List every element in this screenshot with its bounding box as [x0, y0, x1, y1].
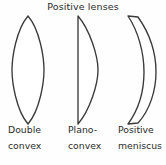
lens-label-double-convex-line2: convex	[8, 138, 41, 154]
lens-label-plano-convex-line1: Plano-	[68, 122, 101, 138]
lens-shape-plano-convex	[56, 14, 112, 126]
lens-outline-positive-meniscus	[128, 16, 156, 124]
lens-label-positive-meniscus-line2: meniscus	[118, 138, 162, 154]
lens-label-positive-meniscus-line1: Positive	[118, 122, 162, 138]
lens-shape-double-convex	[0, 14, 56, 126]
lens-label-double-convex-line1: Double	[8, 122, 41, 138]
lens-caption-row: Double convex Plano- convex Positive men…	[0, 122, 166, 165]
lens-label-double-convex: Double convex	[8, 122, 41, 153]
figure-title: Positive lenses	[0, 1, 166, 13]
lens-label-plano-convex: Plano- convex	[68, 122, 101, 153]
lens-label-positive-meniscus: Positive meniscus	[118, 122, 162, 153]
lens-label-plano-convex-line2: convex	[68, 138, 101, 154]
positive-lenses-figure: Positive lenses Double convex Plano- con…	[0, 0, 166, 165]
lens-outline-double-convex	[12, 16, 44, 124]
lens-diagram-row	[0, 14, 166, 126]
lens-shape-positive-meniscus	[112, 14, 166, 126]
lens-outline-plano-convex	[78, 16, 98, 124]
